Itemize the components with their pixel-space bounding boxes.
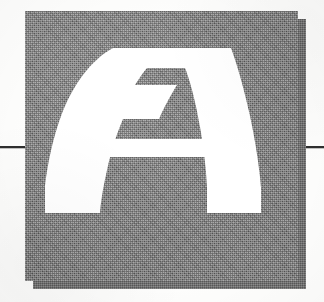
drop-cap-letter-a <box>25 11 298 281</box>
right-horizontal-rule <box>303 146 324 148</box>
chapter-opening-page: A <box>0 0 324 302</box>
left-horizontal-rule <box>0 146 27 148</box>
drop-cap-block: A <box>25 11 298 281</box>
